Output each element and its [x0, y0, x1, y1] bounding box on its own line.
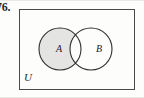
- scan-edge-bottom: [0, 97, 144, 98]
- universal-set-label: U: [24, 71, 32, 83]
- set-b-label: B: [96, 43, 102, 54]
- scan-edge-top: [0, 0, 144, 1]
- venn-circles-svg: [19, 9, 135, 90]
- exercise-number: 76.: [0, 1, 10, 14]
- venn-diagram-figure: 76. A B U: [0, 0, 144, 98]
- set-a-label: A: [56, 43, 62, 54]
